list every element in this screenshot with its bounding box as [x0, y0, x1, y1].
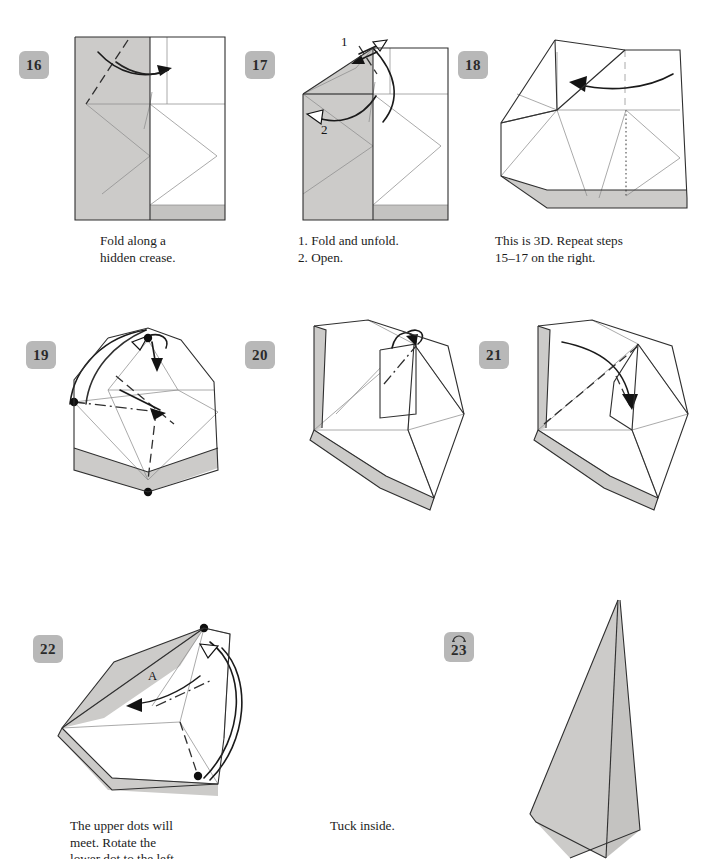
step-23: 23 [430, 590, 708, 859]
step-22: 22 A [0, 600, 280, 859]
step-17-figure: 1 2 [301, 34, 461, 229]
step-badge-16: 16 [19, 51, 49, 79]
origami-instruction-page: 16 Fol [0, 0, 708, 859]
step-badge-18: 18 [458, 51, 488, 79]
step-21: 21 [472, 300, 708, 590]
step-badge-21: 21 [479, 341, 509, 369]
step-badge-19: 19 [26, 341, 56, 369]
step-18: 18 [455, 0, 708, 290]
svg-text:1: 1 [341, 34, 348, 49]
step-badge-20: 20 [245, 341, 275, 369]
step-19-figure [56, 320, 246, 520]
step-badge-17: 17 [245, 51, 275, 79]
step-badge-23-number: 23 [451, 642, 467, 658]
step-17: 17 1 [236, 0, 466, 290]
step-badge-23: 23 [444, 632, 474, 662]
step-21-figure [520, 318, 705, 518]
step-16: 16 Fol [0, 0, 236, 290]
step-16-figure [72, 34, 232, 229]
step-18-caption: This is 3D. Repeat steps 15–17 on the ri… [495, 233, 695, 266]
step-23-figure [478, 590, 698, 859]
step-16-caption: Fold along a hidden crease. [100, 233, 240, 266]
svg-text:A: A [148, 669, 157, 683]
reference-dot [194, 772, 202, 780]
svg-text:2: 2 [321, 122, 328, 137]
step-19: 19 [0, 300, 240, 590]
step-20-figure [296, 318, 481, 518]
reference-dot [144, 334, 152, 342]
step-18-figure [495, 28, 695, 228]
step-22-figure: A [52, 618, 262, 798]
step-17-caption: 1. Fold and unfold. 2. Open. [298, 233, 478, 266]
step-20: 20 [236, 300, 472, 590]
